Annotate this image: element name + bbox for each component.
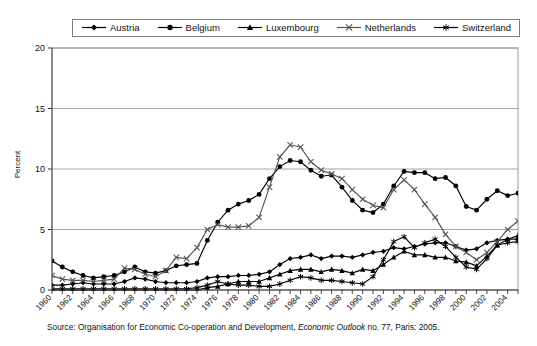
x-tick-label: 1980 — [241, 293, 261, 313]
x-tick-label: 1984 — [283, 293, 303, 313]
x-tick-label: 1982 — [262, 293, 282, 313]
x-tick-label: 2002 — [469, 293, 489, 313]
x-tick-label: 1964 — [76, 293, 96, 313]
y-tick-label: 5 — [40, 225, 45, 235]
x-tick-label: 1992 — [366, 293, 386, 313]
x-tick-label: 2004 — [490, 293, 510, 313]
y-tick-label: 15 — [35, 104, 45, 114]
x-tick-label: 1962 — [55, 293, 75, 313]
x-tick-label: 1994 — [386, 293, 406, 313]
x-tick-label: 1972 — [158, 293, 178, 313]
source-note-prefix: Source: Organisation for Economic Co-ope… — [47, 322, 298, 332]
x-tick-label: 1990 — [345, 293, 365, 313]
y-tick-label: 20 — [35, 43, 45, 53]
x-tick-label: 1976 — [200, 293, 220, 313]
source-note: Source: Organisation for Economic Co-ope… — [47, 322, 439, 332]
x-tick-label: 1996 — [407, 293, 427, 313]
x-tick-label: 1960 — [34, 293, 54, 313]
y-tick-label: 0 — [40, 285, 45, 295]
y-tick-label: 10 — [35, 164, 45, 174]
x-tick-label: 1970 — [138, 293, 158, 313]
x-tick-label: 1978 — [221, 293, 241, 313]
x-tick-label: 1966 — [96, 293, 116, 313]
x-tick-label: 2000 — [448, 293, 468, 313]
x-tick-label: 1974 — [179, 293, 199, 313]
unemployment-rate-chart-figure: AustriaBelgiumLuxembourgNetherlandsSwitz… — [0, 0, 537, 346]
chart-plot-area: 0510152019601962196419661968197019721974… — [0, 0, 537, 346]
x-tick-label: 1986 — [303, 293, 323, 313]
source-note-suffix: no. 77, Paris: 2005. — [365, 322, 439, 332]
x-tick-label: 1988 — [324, 293, 344, 313]
y-axis-title: Percent — [13, 135, 22, 195]
source-note-publication: Economic Outlook — [298, 322, 365, 332]
x-tick-label: 1968 — [117, 293, 137, 313]
x-tick-label: 1998 — [428, 293, 448, 313]
